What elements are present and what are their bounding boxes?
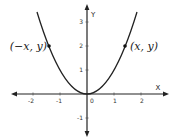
x-axis-label: X xyxy=(156,84,161,92)
point-label-negative: (−x, y) xyxy=(10,40,47,53)
y-tick-label: 2 xyxy=(79,42,83,49)
y-axis-label: Y xyxy=(90,11,96,19)
x-tick-label: -2 xyxy=(28,97,34,104)
point-positive-x xyxy=(123,44,127,48)
y-tick-label: -1 xyxy=(77,114,83,121)
x-tick-label: 1 xyxy=(113,97,117,104)
point-negative-x xyxy=(47,44,51,48)
x-tick-label: 0 xyxy=(90,97,94,104)
x-tick-label: 2 xyxy=(140,97,144,104)
y-tick-label: 1 xyxy=(79,66,83,73)
point-label-positive: (x, y) xyxy=(130,40,158,53)
x-tick-label: -1 xyxy=(56,97,62,104)
parabola-graph: -2 -1 0 1 2 3 2 1 -1 X Y (−x, y) (x, y) xyxy=(0,0,175,138)
y-tick-label: 3 xyxy=(79,18,83,25)
